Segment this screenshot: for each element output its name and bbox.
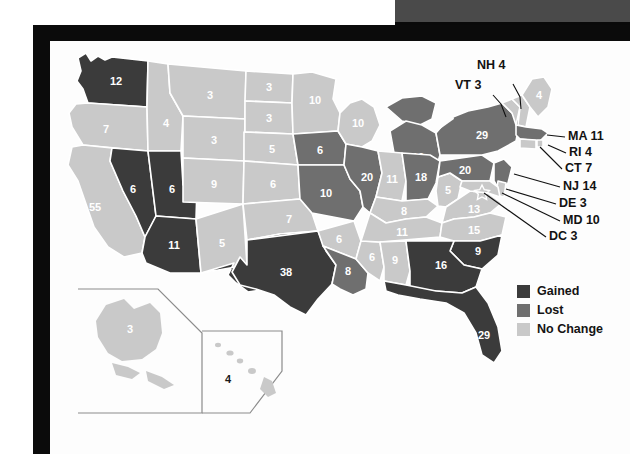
svg-text:55: 55	[89, 201, 101, 213]
legend-label-nochange: No Change	[537, 322, 603, 336]
svg-text:6: 6	[169, 183, 175, 195]
legend-item-gained[interactable]: Gained	[517, 284, 603, 298]
svg-text:4: 4	[163, 117, 170, 129]
svg-text:20: 20	[459, 164, 471, 176]
svg-text:6: 6	[270, 178, 276, 190]
legend-item-lost[interactable]: Lost	[517, 303, 603, 317]
callout-vt: VT 3	[455, 78, 481, 92]
state-az[interactable]: 11	[142, 216, 201, 273]
state-mn[interactable]: 10	[292, 72, 340, 134]
svg-text:6: 6	[369, 251, 375, 263]
svg-text:8: 8	[401, 205, 407, 217]
svg-text:9: 9	[211, 178, 217, 190]
callout-nh: NH 4	[477, 58, 505, 72]
state-ct[interactable]	[520, 139, 536, 149]
svg-text:11: 11	[396, 226, 408, 238]
svg-text:3: 3	[266, 112, 272, 124]
callout-nj: NJ 14	[563, 179, 596, 193]
state-ks[interactable]: 6	[243, 161, 300, 204]
callout-dc: DC 3	[549, 229, 577, 243]
state-fl[interactable]: 29	[384, 281, 502, 363]
svg-text:8: 8	[345, 265, 351, 277]
map-legend: Gained Lost No Change	[517, 284, 603, 341]
state-or[interactable]: 7	[69, 103, 148, 151]
state-nd[interactable]: 3	[245, 71, 293, 103]
svg-text:10: 10	[320, 187, 332, 199]
state-wa[interactable]: 12	[77, 53, 148, 107]
svg-text:15: 15	[468, 224, 480, 236]
legend-label-lost: Lost	[537, 303, 563, 317]
frame-left-edge	[33, 25, 50, 454]
svg-text:12: 12	[110, 75, 122, 87]
svg-text:6: 6	[317, 144, 323, 156]
state-ne[interactable]: 5	[244, 132, 298, 165]
frame-top-edge	[33, 25, 630, 41]
state-co[interactable]: 9	[183, 158, 244, 204]
inset-alaska[interactable]: 3	[78, 289, 202, 413]
us-map-svg: 12 7 55 6	[50, 41, 630, 454]
svg-text:3: 3	[207, 89, 213, 101]
svg-text:29: 29	[478, 329, 490, 341]
svg-text:7: 7	[286, 213, 292, 225]
legend-item-nochange[interactable]: No Change	[517, 322, 603, 336]
callout-md: MD 10	[563, 213, 600, 227]
callout-ma: MA 11	[568, 129, 604, 143]
callout-ct: CT 7	[565, 161, 592, 175]
svg-text:9: 9	[475, 245, 481, 257]
svg-text:11: 11	[386, 173, 398, 185]
svg-text:6: 6	[130, 183, 136, 195]
inset-hawaii[interactable]: 4	[202, 331, 282, 413]
svg-text:3: 3	[266, 81, 272, 93]
photo-top-bar	[395, 0, 630, 22]
svg-text:16: 16	[435, 259, 447, 271]
legend-swatch-nochange	[517, 323, 530, 336]
state-al[interactable]: 9	[380, 241, 410, 285]
svg-text:5: 5	[219, 237, 225, 249]
callout-ri: RI 4	[569, 145, 592, 159]
state-wy[interactable]: 3	[183, 116, 245, 161]
state-wi[interactable]: 10	[338, 99, 380, 147]
svg-text:13: 13	[468, 203, 480, 215]
svg-text:20: 20	[361, 171, 373, 183]
callout-de: DE 3	[559, 196, 587, 210]
state-oh[interactable]: 18	[402, 153, 440, 201]
legend-label-gained: Gained	[537, 284, 579, 298]
svg-text:6: 6	[336, 233, 342, 245]
scanned-page: 12 7 55 6	[0, 0, 630, 454]
state-in[interactable]: 11	[376, 151, 406, 201]
state-ia[interactable]: 6	[293, 131, 346, 165]
legend-swatch-lost	[517, 304, 530, 317]
svg-text:18: 18	[415, 171, 427, 183]
legend-swatch-gained	[517, 285, 530, 298]
hawaii-value: 4	[225, 373, 232, 385]
svg-text:10: 10	[309, 94, 321, 106]
svg-text:7: 7	[103, 123, 109, 135]
alaska-value: 3	[127, 323, 133, 335]
svg-text:4: 4	[536, 89, 543, 101]
state-mt[interactable]: 3	[168, 64, 246, 119]
svg-text:5: 5	[269, 143, 275, 155]
map-sheet: 12 7 55 6	[50, 41, 630, 454]
svg-text:5: 5	[445, 184, 451, 196]
svg-text:38: 38	[280, 266, 292, 278]
us-electoral-map: 12 7 55 6	[50, 41, 630, 454]
state-ri[interactable]	[537, 140, 543, 147]
svg-text:9: 9	[392, 254, 398, 266]
svg-text:10: 10	[352, 117, 364, 129]
state-sd[interactable]: 3	[245, 101, 293, 134]
svg-text:29: 29	[476, 129, 488, 141]
svg-text:11: 11	[168, 239, 180, 251]
svg-text:3: 3	[211, 134, 217, 146]
